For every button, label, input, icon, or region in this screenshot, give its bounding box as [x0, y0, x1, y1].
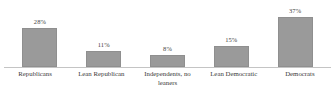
bar-group-lean-democratic[interactable]: 15%	[199, 0, 263, 67]
bar-value-label: 8%	[163, 46, 172, 53]
chart-plot-area: 28% 11% 8% 15% 37%	[0, 0, 335, 67]
bar-rect-lean-democratic[interactable]	[214, 46, 249, 67]
category-label-lean-democratic: Lean Democratic	[201, 69, 267, 87]
category-label-republicans: Republicans	[2, 69, 68, 87]
bar-value-label: 37%	[289, 8, 301, 15]
bar-value-label: 28%	[34, 19, 46, 26]
bar-rect-republicans[interactable]	[22, 28, 57, 67]
category-label-democrats: Democrats	[267, 69, 333, 87]
bar-value-label: 15%	[225, 37, 237, 44]
bar-group-lean-republican[interactable]: 11%	[72, 0, 136, 67]
bar-chart-figure: 28% 11% 8% 15% 37% Republicans Lean Repu…	[0, 0, 335, 98]
bar-rect-democrats[interactable]	[278, 17, 313, 67]
bar-rect-lean-republican[interactable]	[86, 51, 121, 67]
bar-group-republicans[interactable]: 28%	[8, 0, 72, 67]
bar-rect-independents-no-leaners[interactable]	[150, 55, 185, 67]
category-label-independents-no-leaners: Independents, no leaners	[134, 69, 200, 87]
bar-value-label: 11%	[98, 42, 110, 49]
category-axis-labels: Republicans Lean Republican Independents…	[0, 69, 335, 87]
baseline-axis-line	[4, 67, 331, 68]
bar-group-independents-no-leaners[interactable]: 8%	[136, 0, 200, 67]
category-label-lean-republican: Lean Republican	[68, 69, 134, 87]
bar-group-democrats[interactable]: 37%	[263, 0, 327, 67]
